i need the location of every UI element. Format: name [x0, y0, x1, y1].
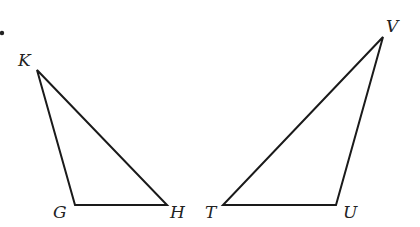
vertex-label-u: U: [343, 202, 358, 222]
triangle-tuv: T U V: [205, 16, 400, 222]
triangle-kgh: K G H: [17, 50, 186, 222]
triangle-kgh-shape: [37, 70, 167, 205]
vertex-label-t: T: [205, 202, 218, 222]
vertex-label-g: G: [53, 202, 67, 222]
marker-dot: [0, 31, 4, 35]
triangle-tuv-shape: [223, 37, 383, 205]
vertex-label-v: V: [386, 16, 400, 36]
diagram-canvas: K G H T U V: [0, 0, 420, 227]
vertex-label-k: K: [17, 50, 32, 70]
vertex-label-h: H: [169, 202, 186, 222]
